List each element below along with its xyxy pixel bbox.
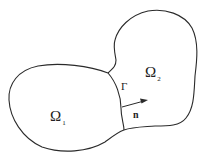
arrow-head-icon [140,99,148,104]
gamma-label: Γ [121,80,127,92]
normal-arrow [122,101,144,107]
omega-2-label: Ω2 [145,64,161,83]
omega-1-boundary [9,64,124,151]
normal-label: n [133,109,139,120]
domain-diagram: Ω1 Ω2 Γ n [0,0,206,162]
omega-1-label: Ω1 [50,108,66,127]
